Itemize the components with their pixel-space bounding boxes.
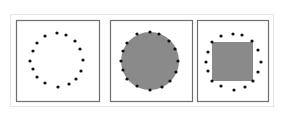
point-dot	[55, 31, 58, 34]
point-dot	[31, 67, 34, 70]
point-dot	[206, 50, 209, 53]
point-dot	[135, 32, 138, 35]
point-dot	[259, 60, 262, 63]
point-dot	[81, 58, 84, 61]
filled-square	[212, 42, 253, 81]
point-dot	[43, 81, 46, 84]
point-dot	[174, 70, 177, 73]
point-dot	[121, 49, 124, 52]
point-dot	[56, 85, 59, 88]
panel-circle	[111, 21, 193, 102]
point-dot	[173, 47, 176, 50]
diagram-canvas	[0, 0, 287, 117]
point-dot	[250, 39, 253, 42]
point-dot	[210, 79, 213, 82]
point-dot	[210, 40, 213, 43]
point-dot	[206, 69, 209, 72]
point-dot	[119, 59, 122, 62]
point-dot	[148, 88, 151, 91]
point-dot	[64, 33, 67, 36]
point-dot	[168, 79, 171, 82]
point-dot	[121, 68, 124, 71]
point-dot	[256, 70, 259, 73]
point-dot	[125, 77, 128, 80]
point-dot	[74, 77, 77, 80]
point-dot	[67, 82, 70, 85]
point-dot	[135, 84, 138, 87]
point-dot	[167, 39, 170, 42]
panel-empty	[17, 21, 100, 102]
point-dot	[240, 33, 243, 36]
point-dot	[232, 88, 235, 91]
point-dot	[73, 39, 76, 42]
point-dot	[160, 85, 163, 88]
panel-square	[198, 21, 269, 102]
point-dot	[251, 79, 254, 82]
point-dot	[31, 49, 34, 52]
point-dot	[176, 59, 179, 62]
point-dot	[79, 69, 82, 72]
point-dot	[157, 32, 160, 35]
point-dot	[243, 85, 246, 88]
point-dot	[256, 48, 259, 51]
point-dot	[219, 84, 222, 87]
point-dot	[78, 47, 81, 50]
point-dot	[231, 32, 234, 35]
point-dot	[219, 34, 222, 37]
point-dot	[204, 60, 207, 63]
point-dot	[28, 59, 31, 62]
point-dot	[35, 41, 38, 44]
point-dot	[35, 75, 38, 78]
point-dot	[125, 41, 128, 44]
point-dot	[43, 34, 46, 37]
point-dot	[148, 30, 151, 33]
